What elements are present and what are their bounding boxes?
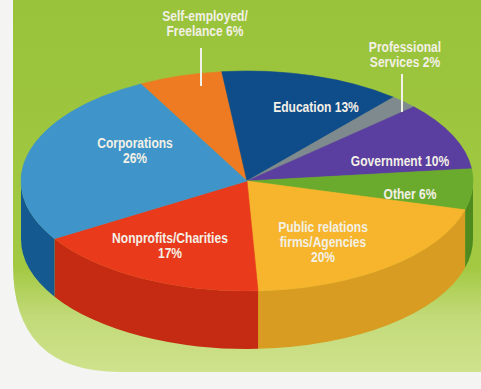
label-government: Government 10% bbox=[340, 154, 460, 169]
label-line: Nonprofits/Charities bbox=[101, 231, 239, 246]
label-public-relations: Public relations firms/Agencies 20% bbox=[267, 220, 379, 265]
label-line: Freelance 6% bbox=[149, 24, 261, 39]
label-self-employed: Self-employed/ Freelance 6% bbox=[149, 9, 261, 39]
label-line: firms/Agencies bbox=[267, 235, 379, 250]
label-nonprofits: Nonprofits/Charities 17% bbox=[101, 231, 239, 261]
leader-line-professional-services bbox=[401, 74, 403, 112]
label-education: Education 13% bbox=[264, 100, 367, 115]
label-professional-services: Professional Services 2% bbox=[349, 40, 461, 70]
label-line: Government 10% bbox=[340, 154, 460, 169]
label-line: 17% bbox=[101, 246, 239, 261]
label-line: Public relations bbox=[267, 220, 379, 235]
label-corporations: Corporations 26% bbox=[79, 136, 191, 166]
leader-line-self-employed bbox=[200, 48, 202, 86]
label-line: 20% bbox=[267, 250, 379, 265]
label-line: Other 6% bbox=[376, 187, 445, 202]
label-line: 26% bbox=[79, 151, 191, 166]
label-line: Corporations bbox=[79, 136, 191, 151]
label-other: Other 6% bbox=[376, 187, 445, 202]
label-line: Professional bbox=[349, 40, 461, 55]
label-line: Education 13% bbox=[264, 100, 367, 115]
label-line: Self-employed/ bbox=[149, 9, 261, 24]
label-line: Services 2% bbox=[349, 55, 461, 70]
pie-top bbox=[21, 71, 473, 291]
